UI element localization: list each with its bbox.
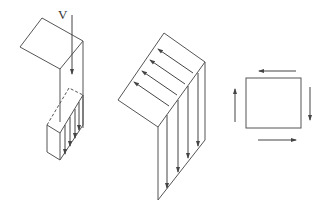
block-bottom-edge	[60, 125, 83, 160]
diagram-canvas: V	[0, 0, 326, 216]
block-top-edge	[60, 95, 83, 133]
element-square	[246, 78, 301, 128]
figure-bent-section	[118, 33, 205, 200]
figure-shear-element	[235, 71, 310, 140]
block-front-face	[47, 125, 60, 160]
figure-plate-load	[20, 15, 83, 160]
section-dashed-edge	[47, 88, 83, 125]
load-label: V	[58, 7, 68, 22]
top-plate	[20, 18, 83, 69]
